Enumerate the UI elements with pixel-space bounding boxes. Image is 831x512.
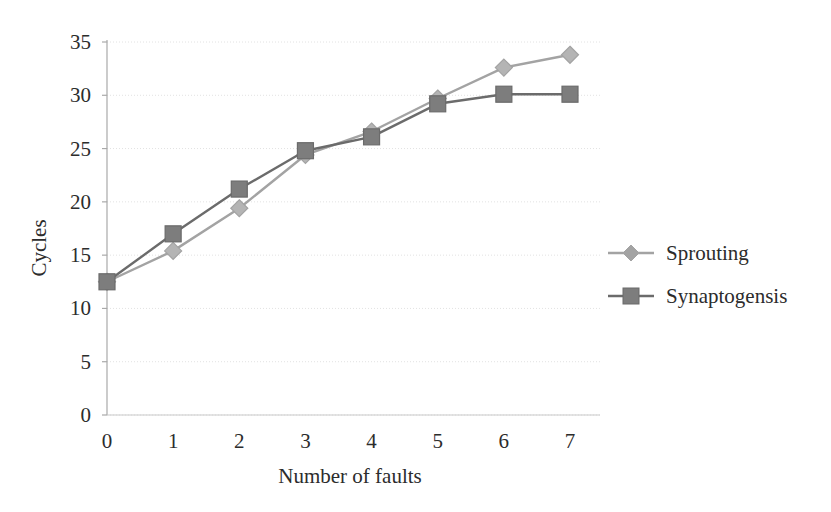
y-tick-label: 30	[70, 83, 91, 107]
data-point-marker	[231, 181, 247, 197]
x-tick-label: 5	[432, 429, 443, 453]
legend-label-synaptogensis: Synaptogensis	[666, 284, 787, 308]
y-tick-label: 25	[70, 137, 91, 161]
x-tick-label: 2	[234, 429, 245, 453]
x-tick-label: 4	[366, 429, 377, 453]
data-point-marker	[99, 274, 115, 290]
legend-square-icon	[623, 288, 639, 304]
data-point-marker	[496, 86, 512, 102]
data-point-marker	[430, 96, 446, 112]
chart-figure: 05101520253035 01234567 Cycles Number of…	[0, 0, 831, 512]
legend-label-sprouting: Sprouting	[666, 241, 749, 265]
x-tick-label: 7	[565, 429, 576, 453]
data-point-marker	[562, 86, 578, 102]
y-tick-label: 35	[70, 30, 91, 54]
line-chart-svg: 05101520253035 01234567 Cycles Number of…	[0, 0, 831, 512]
x-tick-label: 1	[168, 429, 179, 453]
y-tick-label: 0	[81, 403, 92, 427]
data-point-marker	[165, 226, 181, 242]
y-tick-label: 15	[70, 243, 91, 267]
x-tick-label: 0	[102, 429, 113, 453]
x-tick-label: 3	[300, 429, 311, 453]
x-axis-title: Number of faults	[278, 464, 421, 488]
y-tick-label: 20	[70, 190, 91, 214]
legend-item-synaptogensis[interactable]: Synaptogensis	[608, 284, 787, 308]
data-point-marker	[364, 129, 380, 145]
x-tick-label: 6	[499, 429, 510, 453]
data-point-marker	[297, 143, 313, 159]
y-axis-title: Cycles	[27, 219, 51, 276]
y-tick-label: 10	[70, 296, 91, 320]
y-tick-label: 5	[81, 350, 92, 374]
